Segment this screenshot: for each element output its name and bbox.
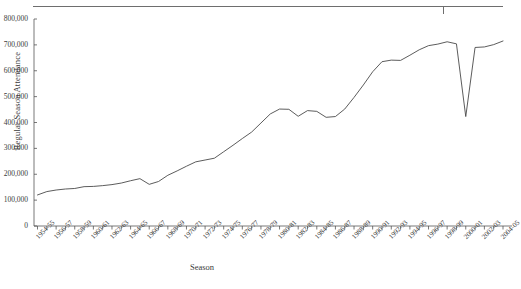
series-line	[38, 41, 504, 195]
axes	[34, 19, 512, 230]
